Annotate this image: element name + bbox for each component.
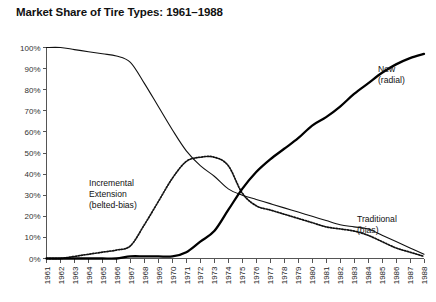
y-tick-label: 40%: [24, 170, 40, 179]
x-tick-label: 1971: [183, 266, 192, 284]
x-tick-label: 1961: [43, 266, 52, 284]
y-tick-label: 10%: [24, 233, 40, 242]
new-radial-label: New(radial): [378, 64, 405, 85]
x-tick-label: 1962: [57, 266, 66, 284]
x-tick-label: 1987: [406, 266, 415, 284]
x-tick-label: 1988: [420, 266, 429, 284]
y-tick-label: 80%: [24, 86, 40, 95]
x-tick-label: 1973: [210, 266, 219, 284]
x-tick-label: 1986: [392, 266, 401, 284]
x-tick-label: 1974: [224, 266, 233, 284]
x-tick-label: 1965: [99, 266, 108, 284]
y-tick-label: 30%: [24, 191, 40, 200]
y-tick-label: 90%: [24, 65, 40, 74]
annotation-line: Traditional: [357, 214, 397, 224]
x-tick-label: 1981: [322, 266, 331, 284]
y-tick-label: 70%: [24, 107, 40, 116]
x-tick-label: 1968: [141, 266, 150, 284]
annotation-line: Extension: [89, 189, 127, 199]
x-tick-label: 1983: [350, 266, 359, 284]
x-tick-label: 1970: [169, 266, 178, 284]
chart-container: Market Share of Tire Types: 1961–1988 0%…: [0, 0, 436, 302]
x-tick-label: 1964: [85, 266, 94, 284]
x-tick-label: 1984: [364, 266, 373, 284]
y-tick-label: 50%: [24, 149, 40, 158]
traditional-bias-label: Traditional(bias): [357, 214, 397, 235]
y-tick-label: 100%: [20, 44, 40, 53]
x-tick-label: 1969: [155, 266, 164, 284]
y-tick-label: 20%: [24, 212, 40, 221]
x-tick-label: 1972: [196, 266, 205, 284]
x-tick-label: 1982: [336, 266, 345, 284]
x-tick-label: 1976: [252, 266, 261, 284]
x-tick-label: 1966: [113, 266, 122, 284]
annotation-line: New: [378, 64, 396, 74]
x-tick-label: 1979: [294, 266, 303, 284]
x-tick-label: 1967: [127, 266, 136, 284]
y-axis: 0%10%20%30%40%50%60%70%80%90%100%: [20, 44, 46, 264]
x-tick-label: 1978: [280, 266, 289, 284]
x-axis: 1961196219631964196519661967196819691970…: [43, 259, 430, 285]
annotation-line: (radial): [378, 75, 405, 85]
annotation-line: Incremental: [89, 178, 134, 188]
y-tick-label: 60%: [24, 128, 40, 137]
x-tick-label: 1975: [238, 266, 247, 284]
incremental-extension-label: IncrementalExtension(belted-bias): [89, 178, 137, 210]
x-tick-label: 1963: [71, 266, 80, 284]
x-tick-label: 1985: [378, 266, 387, 284]
x-tick-label: 1980: [308, 266, 317, 284]
annotation-line: (belted-bias): [89, 200, 137, 210]
annotation-line: (bias): [357, 225, 379, 235]
annotation-layer: New(radial)IncrementalExtension(belted-b…: [89, 64, 405, 235]
x-tick-label: 1977: [266, 266, 275, 284]
y-tick-label: 0%: [29, 255, 41, 264]
line-chart-plot: 0%10%20%30%40%50%60%70%80%90%100% 196119…: [0, 0, 436, 302]
